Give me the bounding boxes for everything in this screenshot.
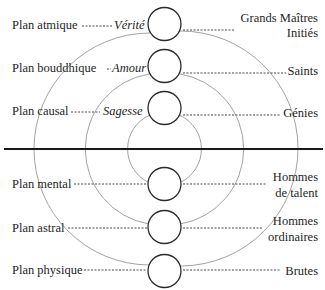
circle-mental [148, 168, 181, 201]
plane-label-astral: Plan astral [12, 221, 64, 235]
plane-label-bouddhique: Plan bouddhique [12, 61, 96, 75]
being-hommes-ordinaires-1: Hommes [273, 214, 318, 228]
circle-physique [148, 255, 181, 288]
being-hommes-talent-1: Hommes [273, 170, 318, 184]
being-brutes: Brutes [285, 264, 318, 278]
plane-label-mental: Plan mental [12, 177, 71, 191]
being-inities: Initiés [287, 26, 318, 40]
being-grands-maitres: Grands Maîtres [241, 11, 318, 25]
circle-astral [148, 211, 181, 244]
being-genies: Génies [283, 106, 318, 120]
diagram-graphics [0, 0, 325, 290]
planes-diagram: Plan atmique Plan bouddhique Plan causal… [0, 0, 325, 290]
circle-atmique [148, 8, 181, 41]
circle-causal [148, 92, 181, 125]
plane-label-causal: Plan causal [12, 104, 69, 118]
quality-amour: Amour [112, 61, 146, 75]
quality-sagesse: Sagesse [103, 104, 143, 118]
quality-verite: Vérité [114, 18, 145, 32]
circle-bouddhique [148, 50, 181, 83]
plane-label-atmique: Plan atmique [12, 18, 78, 32]
being-saints: Saints [287, 64, 318, 78]
being-hommes-talent-2: de talent [275, 186, 318, 200]
being-hommes-ordinaires-2: ordinaires [268, 230, 318, 244]
plane-circles [148, 8, 181, 288]
plane-label-physique: Plan physique [12, 263, 82, 277]
